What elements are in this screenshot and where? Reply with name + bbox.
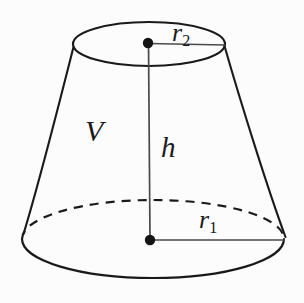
frustum-svg [0, 0, 304, 303]
label-height: h [161, 133, 176, 162]
label-volume: V [85, 116, 103, 146]
label-bottom-radius-symbol: r [199, 205, 209, 234]
label-top-radius: r2 [172, 20, 190, 46]
frustum-diagram: r2 r1 V h [0, 0, 304, 303]
label-bottom-radius: r1 [199, 207, 217, 233]
bottom-ellipse-front-arc [22, 239, 284, 278]
bottom-center-dot [145, 235, 155, 245]
left-slant-edge [24, 47, 74, 234]
label-top-radius-symbol: r [172, 18, 182, 47]
label-top-radius-subscript: 2 [182, 32, 190, 49]
label-bottom-radius-subscript: 1 [209, 219, 217, 236]
bottom-ellipse-back-arc-dashed [22, 200, 284, 239]
height-axis-line [149, 43, 151, 240]
top-center-dot [143, 38, 153, 48]
